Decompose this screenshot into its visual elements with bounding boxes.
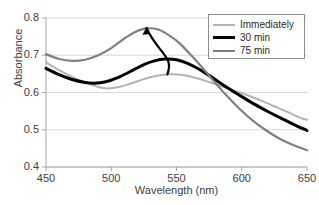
legend-item-75-min[interactable]: 75 min — [213, 44, 300, 57]
legend-item-label: Immediately — [240, 18, 294, 31]
x-tick-label-550: 550 — [157, 172, 197, 184]
legend-item-label: 30 min — [240, 31, 270, 44]
legend-swatch-icon — [213, 50, 235, 52]
legend-item-immediately[interactable]: Immediately — [213, 18, 300, 31]
y-axis-title: Absorbance — [12, 12, 24, 104]
legend-swatch-icon — [213, 24, 235, 26]
y-tick-label-0.4: 0.4 — [13, 160, 39, 172]
absorbance-spectra-chart: 0.80.70.60.50.4 450500550600650 Absorban… — [0, 0, 319, 205]
x-tick-label-450: 450 — [26, 172, 66, 184]
x-tick-label-650: 650 — [287, 172, 319, 184]
y-tick-label-0.5: 0.5 — [13, 123, 39, 135]
legend-item-label: 75 min — [240, 44, 270, 57]
annotations — [143, 28, 169, 74]
x-tick-label-500: 500 — [91, 172, 131, 184]
legend-item-30-min[interactable]: 30 min — [213, 31, 300, 44]
trend-arrow-shaft — [146, 28, 169, 74]
legend-swatch-icon — [213, 36, 235, 39]
chart-legend: Immediately30 min75 min — [208, 14, 305, 59]
series-line-30-min — [46, 59, 307, 131]
x-axis-title: Wavelength (nm) — [46, 184, 307, 196]
x-tick-label-600: 600 — [222, 172, 262, 184]
